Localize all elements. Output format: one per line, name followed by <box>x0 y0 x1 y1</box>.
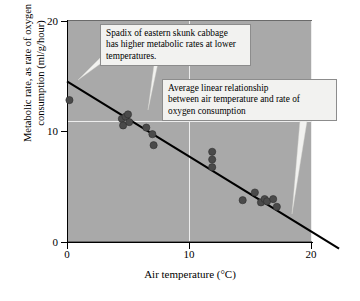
callout-1-line3: temperatures. <box>106 51 156 61</box>
callout-1-line1: Spadix of eastern skunk cabbage <box>106 28 228 38</box>
callout-2-leader <box>292 121 307 214</box>
data-point <box>150 142 157 149</box>
annotation-callout-spadix: Spadix of eastern skunk cabbage has high… <box>100 24 251 66</box>
data-point <box>149 131 156 138</box>
callout-1-leader-left <box>78 58 100 80</box>
scatter-plot-figure: 20 10 0 0 10 20 Metabolic rate, as rate … <box>0 0 360 301</box>
annotation-callout-regression: Average linear relationship between air … <box>162 79 337 121</box>
data-point <box>209 164 216 171</box>
callout-2-line3: oxygen consumption <box>168 106 246 116</box>
data-point <box>209 156 216 163</box>
data-point <box>273 203 280 210</box>
data-point <box>209 148 216 155</box>
callout-2-line1: Average linear relationship <box>168 83 269 93</box>
callout-1-line2: has higher metabolic rates at lower <box>106 39 236 49</box>
data-point <box>143 124 150 131</box>
data-point <box>124 111 131 118</box>
data-point <box>251 189 258 196</box>
data-point <box>126 119 133 126</box>
data-point <box>270 196 277 203</box>
data-point <box>239 197 246 204</box>
data-point <box>66 97 73 104</box>
callout-2-line2: between air temperature and rate of <box>168 94 300 104</box>
